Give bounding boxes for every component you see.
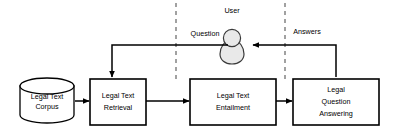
corpus-label-line1: Legal Text — [31, 92, 64, 101]
qa-label-line3: Answering — [319, 109, 353, 118]
user-label: User — [224, 6, 240, 15]
entailment-label-line2: Entailment — [216, 103, 250, 112]
legal-text-entailment-node: Legal Text Entailment — [190, 79, 276, 125]
legal-question-answering-node: Legal Question Answering — [293, 79, 379, 125]
edge-user-to-retrieval — [112, 45, 228, 77]
entailment-label-line1: Legal Text — [217, 91, 250, 100]
qa-label-line2: Question — [322, 97, 351, 106]
flowchart-svg: Legal Text Corpus Legal Text Retrieval L… — [0, 0, 400, 133]
edge-label-answers: Answers — [293, 27, 321, 36]
retrieval-label-line2: Retrieval — [104, 103, 133, 112]
legal-text-corpus-node: Legal Text Corpus — [20, 78, 74, 123]
legal-text-retrieval-node: Legal Text Retrieval — [90, 79, 146, 125]
retrieval-label-line1: Legal Text — [102, 91, 135, 100]
user-head-icon — [223, 29, 240, 46]
edge-qa-to-user — [253, 45, 336, 77]
corpus-label-line2: Corpus — [35, 102, 59, 111]
qa-label-line1: Legal — [327, 85, 345, 94]
user-actor-node: User — [220, 6, 244, 64]
diagram-canvas: Legal Text Corpus Legal Text Retrieval L… — [0, 0, 400, 133]
edge-label-question: Question — [191, 29, 220, 38]
